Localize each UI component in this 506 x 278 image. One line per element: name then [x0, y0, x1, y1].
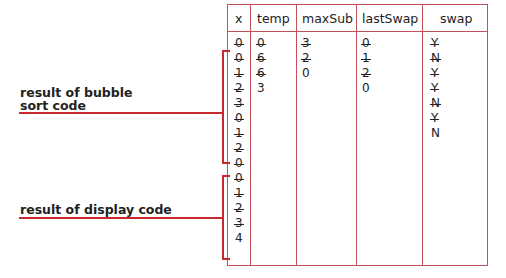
- header-lastswap: lastSwap: [362, 11, 418, 26]
- cell-value: 2: [235, 81, 243, 96]
- column-temp-values: 0663: [257, 36, 265, 96]
- col-divider: [296, 5, 297, 265]
- cell-value: 4: [235, 231, 243, 246]
- display-label: result of display code: [20, 203, 172, 217]
- cell-value: 2: [235, 201, 243, 216]
- column-x-values: 00123012001234: [235, 36, 243, 246]
- cell-value: 3: [302, 36, 310, 51]
- cell-value: Y: [431, 81, 440, 96]
- column-maxsub-values: 320: [302, 36, 310, 81]
- cell-value: 2: [235, 141, 243, 156]
- cell-value: 0: [235, 171, 243, 186]
- col-divider: [250, 5, 251, 265]
- header-temp: temp: [257, 11, 290, 26]
- cell-value: Y: [431, 111, 440, 126]
- cell-value: Y: [431, 66, 440, 81]
- cell-value: 1: [235, 66, 243, 81]
- cell-value: 0: [362, 36, 370, 51]
- column-swap-values: YNYYNYN: [431, 36, 440, 141]
- cell-value: 0: [235, 51, 243, 66]
- cell-value: 1: [235, 126, 243, 141]
- cell-value: 0: [235, 111, 243, 126]
- cell-value: 3: [257, 81, 265, 96]
- display-bracket-bottom: [222, 258, 230, 260]
- header-swap: swap: [440, 11, 472, 26]
- cell-value: 2: [362, 66, 370, 81]
- cell-value: 6: [257, 66, 265, 81]
- column-lastswap-values: 0120: [362, 36, 370, 96]
- display-pointer-line: [19, 217, 224, 219]
- bubble-bracket: [222, 50, 224, 164]
- cell-value: 0: [302, 66, 310, 81]
- header-x: x: [235, 11, 242, 26]
- desk-check-table: x temp maxSub lastSwap swap 001230120012…: [227, 4, 488, 266]
- cell-value: 3: [235, 216, 243, 231]
- col-divider: [356, 5, 357, 265]
- cell-value: 0: [235, 156, 243, 171]
- cell-value: 1: [235, 186, 243, 201]
- cell-value: 3: [235, 96, 243, 111]
- cell-value: 0: [235, 36, 243, 51]
- cell-value: 2: [302, 51, 310, 66]
- cell-value: Y: [431, 36, 440, 51]
- bubble-bracket-bottom: [222, 162, 230, 164]
- cell-value: N: [431, 51, 440, 66]
- cell-value: N: [431, 96, 440, 111]
- cell-value: 0: [257, 36, 265, 51]
- cell-value: 6: [257, 51, 265, 66]
- bubble-label-2: sort code: [20, 99, 86, 113]
- header-divider: [228, 31, 487, 32]
- cell-value: 1: [362, 51, 370, 66]
- cell-value: N: [431, 126, 440, 141]
- header-maxsub: maxSub: [302, 11, 353, 26]
- bubble-bracket-top: [222, 50, 230, 52]
- col-divider: [422, 5, 423, 265]
- cell-value: 0: [362, 81, 370, 96]
- display-bracket-top: [222, 175, 230, 177]
